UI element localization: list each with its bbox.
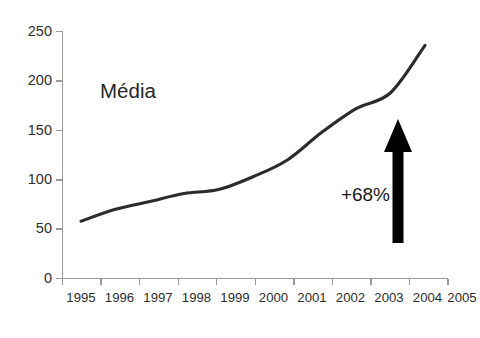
growth-percent-label: +68% [341,184,390,205]
x-tick-label: 2002 [336,290,365,305]
x-tick-label: 2000 [259,290,288,305]
x-tick-label: 1997 [143,290,172,305]
y-tick-label: 150 [28,122,52,138]
y-tick-label: 250 [28,23,52,39]
chart-container: 0 50 100 150 200 250 1995 1996 1997 1 [0,0,480,338]
y-tick-label: 100 [28,171,52,187]
y-tick-label: 0 [44,270,52,286]
x-tick-label: 2001 [297,290,326,305]
y-tick-label: 50 [36,220,52,236]
x-tick-label: 2003 [374,290,403,305]
x-tick-label: 1999 [220,290,249,305]
x-tick-label: 1998 [182,290,211,305]
x-tick-label: 1995 [66,290,95,305]
series-label-media: Média [100,79,156,102]
y-tick-label: 200 [28,72,52,88]
x-tick-label: 2005 [447,290,476,305]
x-axis-labels: 1995 1996 1997 1998 1999 2000 2001 2002 … [66,290,476,305]
x-tick-label: 1996 [105,290,134,305]
x-tick-label: 2004 [413,290,442,305]
line-chart: 0 50 100 150 200 250 1995 1996 1997 1 [0,0,480,338]
chart-background [0,0,480,338]
